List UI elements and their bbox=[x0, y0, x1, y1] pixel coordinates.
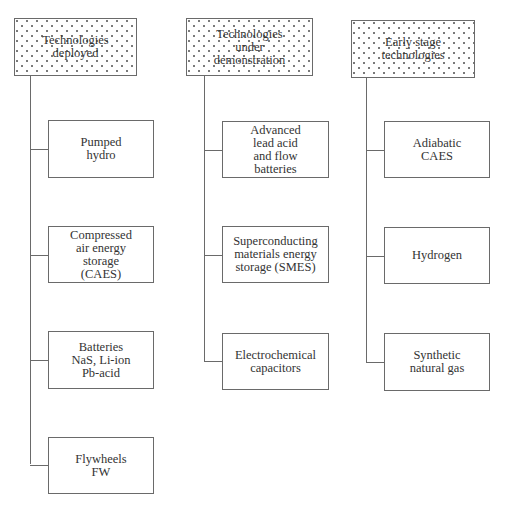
connector-branch bbox=[366, 150, 384, 151]
node-adiabatic-caes: Adiabatic CAES bbox=[384, 121, 490, 178]
connector-branch bbox=[30, 255, 48, 256]
node-label: Advanced lead acid and flow batteries bbox=[250, 124, 301, 176]
node-label: Batteries NaS, Li-ion Pb-acid bbox=[71, 341, 130, 380]
connector-branch bbox=[30, 149, 48, 150]
node-smes: Superconducting materials energy storage… bbox=[222, 226, 329, 283]
connector-branch bbox=[204, 361, 222, 362]
node-label: Synthetic natural gas bbox=[410, 349, 465, 375]
header-technologies-under-demonstration: Technologies under demonstration bbox=[186, 18, 313, 76]
header-label: Early stage technologies bbox=[381, 36, 444, 62]
connector-branch bbox=[204, 150, 222, 151]
node-pumped-hydro: Pumped hydro bbox=[48, 120, 154, 178]
node-batteries: Batteries NaS, Li-ion Pb-acid bbox=[48, 331, 154, 389]
connector-trunk bbox=[204, 76, 205, 362]
connector-trunk bbox=[366, 78, 367, 363]
node-synthetic-natural-gas: Synthetic natural gas bbox=[384, 333, 490, 391]
node-label: Hydrogen bbox=[412, 249, 462, 262]
connector-branch bbox=[366, 362, 384, 363]
node-label: Pumped hydro bbox=[81, 136, 122, 162]
connector-branch bbox=[30, 360, 48, 361]
header-label: Technologies under demonstration bbox=[214, 28, 286, 67]
header-early-stage-technologies: Early stage technologies bbox=[351, 20, 475, 78]
connector-branch bbox=[30, 465, 48, 466]
header-technologies-deployed: Technologies deployed bbox=[14, 18, 137, 76]
node-caes: Compressed air energy storage (CAES) bbox=[48, 226, 154, 283]
node-label: Adiabatic CAES bbox=[413, 137, 462, 163]
node-hydrogen: Hydrogen bbox=[384, 227, 490, 284]
connector-branch bbox=[204, 255, 222, 256]
connector-branch bbox=[366, 256, 384, 257]
node-electrochemical-capacitors: Electrochemical capacitors bbox=[222, 333, 329, 390]
header-label: Technologies deployed bbox=[42, 34, 108, 60]
node-label: Superconducting materials energy storage… bbox=[233, 235, 318, 274]
node-flywheels: Flywheels FW bbox=[48, 437, 154, 494]
node-label: Flywheels FW bbox=[75, 453, 126, 479]
connector-trunk bbox=[30, 76, 31, 464]
node-label: Compressed air energy storage (CAES) bbox=[70, 229, 132, 281]
node-advanced-lead-acid: Advanced lead acid and flow batteries bbox=[222, 121, 329, 178]
node-label: Electrochemical capacitors bbox=[235, 349, 316, 375]
